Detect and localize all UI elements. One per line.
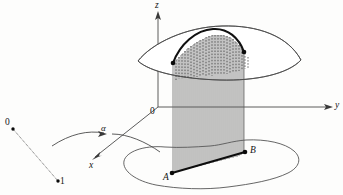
alpha-curve-tail (112, 134, 160, 152)
point-b-dot (243, 150, 248, 155)
interval-start-label: 0 (5, 118, 10, 128)
arc-endpoint-right-dot (242, 50, 247, 55)
interval-end-label: 1 (60, 177, 65, 187)
point-a-dot (170, 171, 175, 176)
point-a-label: A (163, 173, 169, 183)
unit-interval-segment (13, 129, 58, 181)
y-axis-label: y (335, 101, 339, 111)
figure-root: z y x 0 0 1 α A B (0, 0, 343, 195)
alpha-map-label: α (101, 124, 106, 133)
upper-plane-outline (138, 26, 301, 80)
x-axis-label: x (89, 161, 93, 171)
arc-endpoint-left-dot (171, 61, 176, 66)
diagram-canvas (0, 0, 343, 195)
origin-label: 0 (150, 107, 155, 117)
alpha-arrow-curve (52, 132, 104, 146)
point-b-label: B (250, 146, 256, 156)
interval-start-dot (11, 127, 14, 130)
z-axis-label: z (155, 1, 159, 11)
